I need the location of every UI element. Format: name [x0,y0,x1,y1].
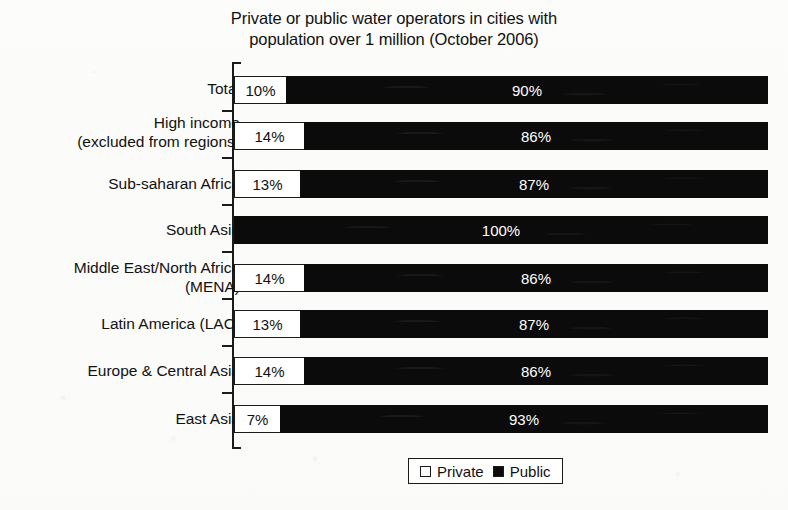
public-value-label: 87% [519,176,549,193]
y-axis-tick [222,110,233,112]
bar-segment-public: 90% [286,76,768,104]
public-value-label: 90% [512,82,542,99]
bar-row: 13%87% [234,170,768,198]
bar-segment-private: 7% [234,405,280,433]
y-axis-tick [222,204,233,206]
private-value-label: 14% [254,363,284,380]
public-value-label: 93% [509,411,539,428]
chart-plot-area: TotalHigh income (excluded from regions)… [0,0,788,510]
public-value-label: 87% [519,316,549,333]
bar-segment-public: 86% [304,357,768,385]
category-label: South Asia [166,220,240,239]
bar-segment-private: 14% [234,122,304,150]
bar-segment-private: 13% [234,310,300,338]
y-axis-tick [222,298,233,300]
category-label: Middle East/North Africa (MENA) [74,258,240,296]
y-axis-tick [222,392,233,394]
bar-row: 10%90% [234,76,768,104]
y-axis-cap-top [232,62,241,64]
bar-segment-private: 10% [234,76,286,104]
category-label: Europe & Central Asia [87,361,240,380]
bar-segment-public: 86% [304,264,768,292]
bar-row: 13%87% [234,310,768,338]
category-label: Latin America (LAC) [101,314,240,333]
y-axis-cap-bottom [232,447,241,449]
bar-row: 100% [234,216,768,244]
y-axis-tick [222,345,233,347]
private-value-label: 14% [254,128,284,145]
bar-segment-public: 87% [300,310,768,338]
public-swatch-icon [493,466,504,477]
bar-segment-private: 14% [234,264,304,292]
y-axis-tick [222,251,233,253]
bar-segment-public: 87% [300,170,768,198]
y-axis-tick [222,157,233,159]
bar-segment-private: 14% [234,357,304,385]
bar-segment-public: 100% [234,216,768,244]
legend-label-public: Public [510,463,551,480]
bar-segment-private: 13% [234,170,300,198]
bar-row: 14%86% [234,264,768,292]
category-label: East Asia [175,409,240,428]
legend-item-private[interactable]: Private [420,463,484,480]
private-value-label: 7% [247,411,269,428]
bar-row: 14%86% [234,122,768,150]
public-value-label: 86% [521,128,551,145]
bar-segment-public: 86% [304,122,768,150]
bar-row: 7%93% [234,405,768,433]
category-label: Sub-saharan Africa [108,174,240,193]
public-value-label: 100% [482,222,520,239]
category-label: High income (excluded from regions) [77,113,240,151]
legend-item-public[interactable]: Public [493,463,551,480]
private-swatch-icon [420,466,431,477]
public-value-label: 86% [521,270,551,287]
bar-row: 14%86% [234,357,768,385]
private-value-label: 10% [245,82,275,99]
legend-label-private: Private [437,463,484,480]
public-value-label: 86% [521,363,551,380]
private-value-label: 13% [252,176,282,193]
private-value-label: 13% [252,316,282,333]
private-value-label: 14% [254,270,284,287]
bar-segment-public: 93% [280,405,768,433]
chart-legend: Private Public [408,458,563,484]
